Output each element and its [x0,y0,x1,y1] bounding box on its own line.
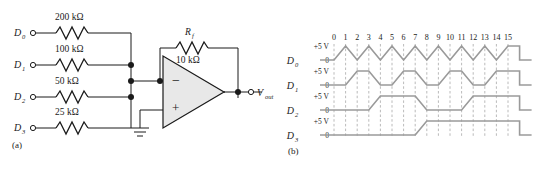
input-label-d3-sub: 3 [21,128,26,135]
row-label-d0: D [286,55,295,66]
tick-label-12: 12 [469,33,477,42]
input-label-d0: D [13,27,22,38]
level-label-high-2: +5 V [314,92,330,101]
tick-label-14: 14 [492,33,500,42]
input-label-d1-sub: 1 [22,65,25,72]
feedback-resistor-symbol: R [184,27,191,37]
resistor-d1-symbol [56,59,88,71]
resistor-d0-symbol [56,27,88,39]
terminal-d1 [30,62,35,67]
input-label-d1: D [13,59,22,70]
tick-label-5: 5 [390,33,394,42]
waveform-row-d0: D0+5 V0 [286,42,532,68]
row-label-sub-0: 0 [295,61,299,68]
wire-noninverting-to-ground [140,110,163,128]
row-label-sub-1: 1 [295,86,298,93]
panel-a-caption: (a) [12,140,22,150]
opamp-noninverting-sign: + [172,100,179,115]
tick-label-7: 7 [413,33,417,42]
input-row-d2: D 2 50 kΩ [13,76,134,104]
terminal-vout [248,89,253,94]
waveform-trace-d2 [320,96,532,110]
waveform-row-d2: D2+5 V0 [286,92,532,118]
waveform-row-d3: D3+5 V0 [286,117,532,143]
input-label-d3: D [13,122,22,133]
level-label-high-3: +5 V [314,117,330,126]
resistor-feedback-symbol [176,42,208,54]
panel-b-caption: (b) [288,146,299,156]
tick-label-11: 11 [458,33,466,42]
figure-canvas: D 0 200 kΩ D 1 100 kΩ D 2 50 [0,0,539,171]
waveform-row-group: D0+5 V0D1+5 V0D2+5 V0D3+5 V0 [286,42,532,143]
dashed-guide-group [334,44,508,137]
resistor-value-d3: 25 kΩ [55,107,79,117]
output-label-vout: V [257,87,265,98]
waveform-trace-d1 [320,71,532,85]
panel-a-circuit: D 0 200 kΩ D 1 100 kΩ D 2 50 [12,12,274,150]
waveform-trace-d3 [320,121,532,135]
tick-label-group: 0123456789101112131415 [332,33,512,42]
input-label-d2-sub: 2 [22,97,26,104]
tick-label-9: 9 [436,33,440,42]
tick-label-2: 2 [355,33,359,42]
level-label-high-0: +5 V [314,42,330,51]
row-label-sub-3: 3 [294,136,299,143]
tick-label-0: 0 [332,33,336,42]
terminal-d0 [30,30,35,35]
row-label-d1: D [286,80,295,91]
resistor-value-d1: 100 kΩ [55,44,83,54]
feedback-resistor-symbol-sub: f [192,32,195,39]
waveform-row-d1: D1+5 V0 [286,67,532,93]
input-label-d2: D [13,91,22,102]
resistor-d2-symbol [56,91,88,103]
panel-b-timing: 0123456789101112131415 D0+5 V0D1+5 V0D2+… [286,33,532,156]
resistor-value-d0: 200 kΩ [55,12,83,22]
tick-label-3: 3 [367,33,371,42]
figure-dac-and-timing: D 0 200 kΩ D 1 100 kΩ D 2 50 [0,0,539,171]
tick-label-10: 10 [446,33,454,42]
ground-symbol [131,128,149,136]
resistor-d3-symbol [56,122,88,134]
resistor-value-d2: 50 kΩ [55,76,79,86]
tick-label-6: 6 [402,33,406,42]
tick-label-1: 1 [344,33,348,42]
level-label-high-1: +5 V [314,67,330,76]
junction-dot-output [235,89,241,95]
input-row-d3: D 3 25 kΩ [13,107,131,135]
tick-label-13: 13 [481,33,489,42]
tick-label-4: 4 [378,33,382,42]
row-label-d3: D [286,130,295,141]
input-row-d0: D 0 200 kΩ [13,12,131,40]
waveform-trace-d0 [320,46,532,60]
terminal-d2 [30,94,35,99]
row-label-d2: D [286,105,295,116]
tick-label-15: 15 [504,33,512,42]
feedback-resistor-value: 10 kΩ [176,55,200,65]
junction-dot-summing-node [128,78,134,84]
input-label-d0-sub: 0 [22,33,26,40]
terminal-d3 [30,125,35,130]
tick-label-8: 8 [425,33,429,42]
output-label-vout-sub: out [265,93,274,100]
input-row-d1: D 1 100 kΩ [13,44,134,72]
opamp-body [163,56,224,128]
opamp-inverting-sign: − [172,73,180,88]
row-label-sub-2: 2 [295,111,299,118]
